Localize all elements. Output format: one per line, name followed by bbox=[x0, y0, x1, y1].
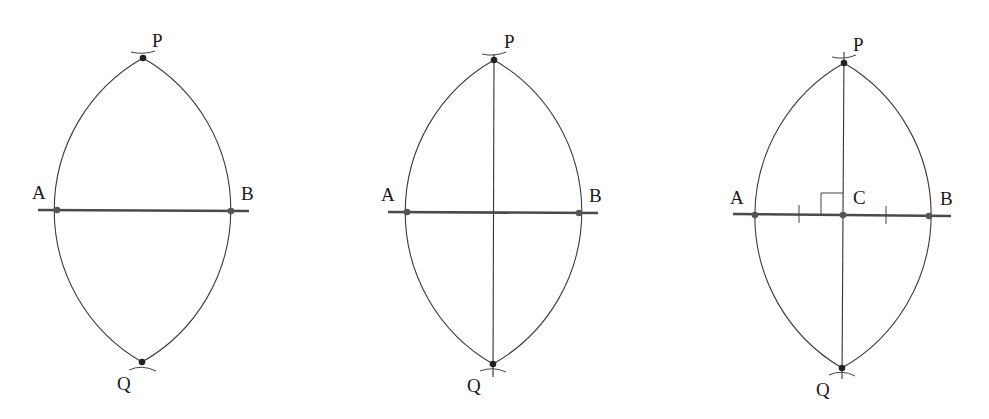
line-pq bbox=[493, 54, 494, 377]
arc-mark-p bbox=[131, 51, 155, 53]
segment-ab bbox=[388, 212, 598, 213]
point-a bbox=[752, 212, 759, 219]
label-p: P bbox=[853, 34, 864, 55]
label-b: B bbox=[241, 183, 254, 204]
label-p: P bbox=[504, 31, 515, 52]
arc-mark-q bbox=[129, 367, 156, 371]
label-p: P bbox=[152, 30, 163, 51]
right-angle-marker bbox=[821, 193, 843, 214]
point-b bbox=[926, 213, 933, 220]
point-a bbox=[404, 209, 411, 216]
label-b: B bbox=[589, 185, 602, 206]
point-b bbox=[576, 210, 583, 217]
arc-mark-p bbox=[482, 52, 506, 55]
diagram-canvas: P Q A B P Q A B P bbox=[0, 0, 989, 419]
point-p bbox=[841, 60, 848, 67]
point-q bbox=[839, 365, 846, 372]
label-q: Q bbox=[816, 379, 830, 400]
point-q bbox=[139, 359, 146, 366]
point-c bbox=[840, 212, 847, 219]
label-a: A bbox=[730, 187, 744, 208]
segment-ab bbox=[38, 210, 249, 211]
point-b bbox=[228, 208, 235, 215]
label-q: Q bbox=[467, 375, 481, 396]
point-p bbox=[491, 57, 498, 64]
figure-step-2: P Q A B bbox=[381, 31, 602, 396]
point-q bbox=[490, 361, 497, 368]
label-a: A bbox=[32, 182, 46, 203]
figure-step-1: P Q A B bbox=[32, 30, 254, 394]
label-c: C bbox=[853, 187, 866, 208]
label-q: Q bbox=[117, 373, 131, 394]
label-b: B bbox=[940, 188, 953, 209]
label-a: A bbox=[381, 184, 395, 205]
figure-step-3: P Q A C B bbox=[730, 34, 953, 400]
point-p bbox=[140, 55, 147, 62]
point-a bbox=[54, 207, 61, 214]
